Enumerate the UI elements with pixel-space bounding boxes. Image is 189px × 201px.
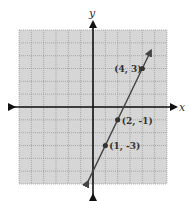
coordinate-plane: x y (4, 3)(2, -1)(1, -3) bbox=[0, 0, 189, 201]
data-point bbox=[103, 143, 108, 148]
point-label: (1, -3) bbox=[109, 141, 140, 152]
point-label: (2, -1) bbox=[122, 116, 153, 127]
x-axis-label: x bbox=[179, 101, 186, 114]
y-axis-label: y bbox=[88, 7, 96, 20]
point-label: (4, 3) bbox=[114, 64, 141, 75]
data-point bbox=[115, 117, 120, 122]
